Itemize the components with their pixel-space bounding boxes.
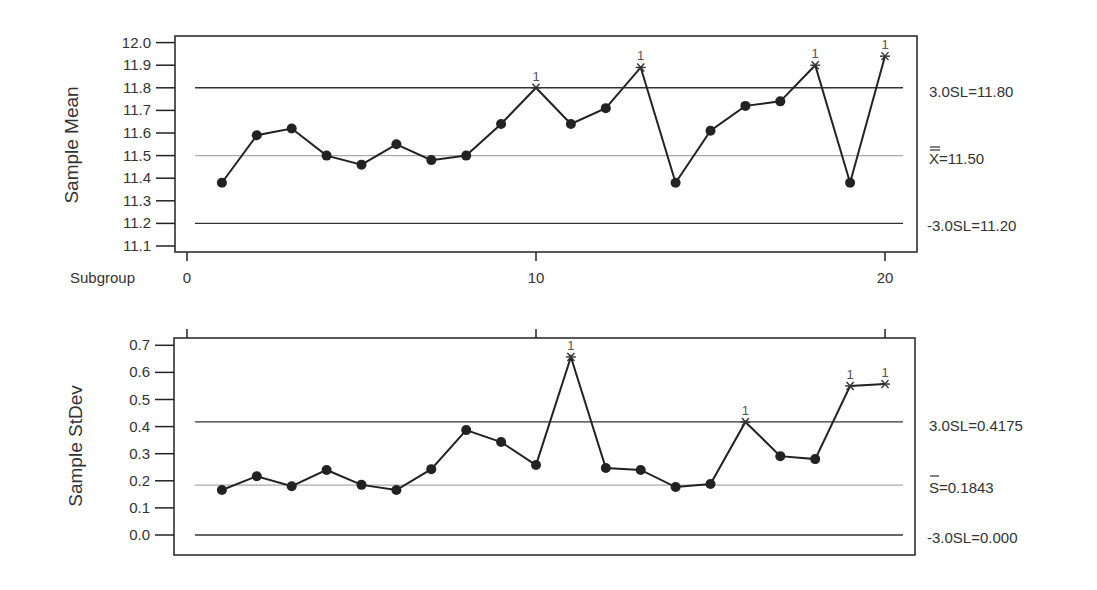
y-tick-label: 0.1 — [129, 499, 150, 516]
y-tick-label: 11.3 — [123, 192, 151, 209]
flag-label: 1 — [846, 367, 853, 382]
s-x-axis — [187, 329, 885, 338]
xbar-center-label: X=11.50 — [929, 147, 984, 167]
flag-label: 1 — [742, 403, 749, 418]
flag-label: 1 — [637, 48, 644, 63]
xbar-lcl-label: -3.0SL=11.20 — [927, 217, 1016, 234]
s-center-label: S=0.1843 — [929, 476, 994, 496]
data-point-icon — [287, 481, 297, 491]
y-tick-label: 11.5 — [123, 147, 151, 164]
data-point-icon — [810, 454, 820, 464]
data-point-icon — [706, 126, 716, 136]
data-point-icon — [845, 178, 855, 188]
xbar-cl-value: =11.50 — [939, 150, 984, 167]
data-point-icon — [775, 451, 785, 461]
flag-label: 1 — [881, 365, 888, 380]
y-tick-label: 0.4 — [129, 418, 150, 435]
y-tick-label: 11.8 — [123, 79, 151, 96]
data-point-icon — [357, 160, 367, 170]
data-point-icon — [322, 151, 332, 161]
data-point-icon — [601, 463, 611, 473]
flag-label: 1 — [812, 46, 819, 61]
xbar-y-axis-title: Sample Mean — [61, 86, 82, 203]
data-point-icon — [461, 425, 471, 435]
y-tick-label: 11.7 — [123, 101, 151, 118]
data-point-icon — [706, 479, 716, 489]
y-tick-label: 11.4 — [123, 169, 151, 186]
y-tick-label: 11.6 — [123, 124, 151, 141]
data-point-icon — [357, 480, 367, 490]
data-point-icon — [671, 178, 681, 188]
s-series: 1111 — [217, 338, 890, 495]
data-point-icon — [426, 155, 436, 165]
xbar-ucl-label: 3.0SL=11.80 — [929, 83, 1013, 100]
x-tick-label: 20 — [877, 269, 894, 286]
s-lcl-label: -3.0SL=0.000 — [927, 529, 1018, 546]
data-point-icon — [496, 119, 506, 129]
y-tick-label: 11.9 — [123, 56, 151, 73]
y-tick-label: 0.0 — [129, 526, 150, 543]
data-point-icon — [217, 485, 227, 495]
x-tick-label: 10 — [528, 269, 545, 286]
xbar-plot-frame — [175, 36, 917, 252]
data-point-icon — [636, 465, 646, 475]
data-point-icon — [775, 96, 785, 106]
xbar-control-limits — [195, 88, 903, 224]
xbar-y-axis: 12.011.911.811.711.611.511.411.311.211.1 — [122, 34, 175, 254]
data-point-icon — [671, 482, 681, 492]
xbar-series: 1111 — [217, 37, 890, 188]
y-tick-label: 0.3 — [129, 445, 150, 462]
data-point-icon — [287, 123, 297, 133]
control-chart: 12.011.911.811.711.611.511.411.311.211.1… — [0, 0, 1097, 590]
xbar-cl-symbol: X — [929, 150, 939, 167]
data-point-icon — [391, 485, 401, 495]
data-point-icon — [391, 139, 401, 149]
series-line — [222, 56, 885, 183]
s-y-axis-title: Sample StDev — [65, 385, 86, 507]
data-point-icon — [252, 130, 262, 140]
y-tick-label: 0.5 — [129, 391, 150, 408]
flag-label: 1 — [567, 338, 574, 353]
xbar-chart: 12.011.911.811.711.611.511.411.311.211.1… — [61, 34, 1016, 286]
data-point-icon — [531, 460, 541, 470]
xbar-x-axis: 01020 — [183, 252, 894, 286]
s-control-limits — [195, 422, 903, 535]
series-line — [222, 357, 885, 490]
s-cl-symbol: S — [929, 479, 939, 496]
y-tick-label: 0.7 — [129, 336, 150, 353]
data-point-icon — [566, 119, 576, 129]
data-point-icon — [252, 471, 262, 481]
y-tick-label: 12.0 — [122, 34, 151, 51]
y-tick-label: 0.2 — [129, 472, 150, 489]
subgroup-label: Subgroup — [70, 269, 135, 286]
data-point-icon — [496, 437, 506, 447]
flag-label: 1 — [532, 69, 539, 84]
data-point-icon — [740, 101, 750, 111]
x-tick-label: 0 — [183, 269, 191, 286]
data-point-icon — [601, 103, 611, 113]
y-tick-label: 11.2 — [123, 214, 151, 231]
svg-text:S=0.1843: S=0.1843 — [929, 479, 994, 496]
svg-text:X=11.50: X=11.50 — [929, 150, 984, 167]
data-point-icon — [217, 178, 227, 188]
data-point-icon — [426, 464, 436, 474]
s-ucl-label: 3.0SL=0.4175 — [929, 417, 1023, 434]
y-tick-label: 11.1 — [123, 237, 151, 254]
s-plot-frame — [174, 338, 915, 555]
data-point-icon — [322, 465, 332, 475]
y-tick-label: 0.6 — [129, 363, 150, 380]
data-point-icon — [461, 151, 471, 161]
s-chart: 0.70.60.50.40.30.20.10.0 Sample StDev 11… — [65, 329, 1023, 555]
s-cl-value: =0.1843 — [939, 479, 994, 496]
s-y-axis: 0.70.60.50.40.30.20.10.0 — [129, 336, 174, 543]
flag-label: 1 — [881, 37, 888, 52]
